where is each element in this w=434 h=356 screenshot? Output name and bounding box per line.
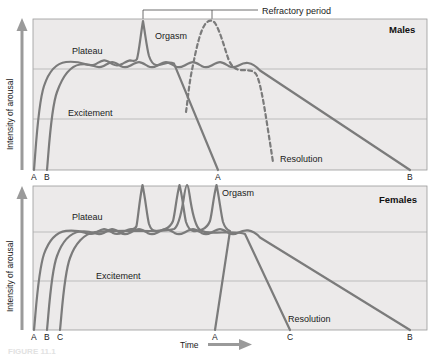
refractory-period-bracket [143,10,258,19]
label-excitement-males: Excitement [68,108,113,118]
y-axis-arrow-males [17,18,28,170]
x-tick-females-5: B [407,332,413,342]
x-tick-males-3: B [407,172,413,182]
x-tick-females-1: B [44,332,50,342]
panel-males: Plateau Orgasm Excitement Resolution Mal… [33,19,427,170]
label-plateau-males: Plateau [72,46,103,56]
panel-title-females: Females [379,194,417,205]
x-ticks-females: A B C A C B [31,332,413,342]
y-axis-arrow-females [17,186,28,330]
x-axis-label: Time [180,340,199,350]
label-orgasm-males: Orgasm [155,31,187,41]
label-orgasm-females: Orgasm [222,188,254,198]
y-axis-label-males: Intensity of arousal [5,79,15,150]
x-ticks-males: A B A B [31,172,413,182]
panel-males-background [33,19,427,170]
label-resolution-females: Resolution [288,314,331,324]
label-excitement-females: Excitement [96,271,141,281]
label-plateau-females: Plateau [72,212,103,222]
figure-svg: Intensity of arousal Intensity of arousa… [0,0,434,356]
x-tick-females-0: A [31,332,37,342]
x-tick-males-0: A [31,172,37,182]
y-axis-label-females: Intensity of arousal [5,241,15,312]
figure-sexual-response-cycles: Intensity of arousal Intensity of arousa… [0,0,434,356]
x-tick-males-2: A [215,172,221,182]
panel-title-males: Males [389,24,415,35]
x-tick-females-4: C [287,332,293,342]
x-tick-females-2: C [57,332,63,342]
x-tick-females-3: A [212,332,218,342]
figure-caption: FIGURE 11.1 [8,347,56,356]
refractory-period-label: Refractory period [262,6,331,16]
panel-females-background [33,186,427,330]
x-tick-males-1: B [44,172,50,182]
panel-females: Plateau Orgasm Excitement Resolution Fem… [33,185,427,330]
label-resolution-males: Resolution [280,154,323,164]
